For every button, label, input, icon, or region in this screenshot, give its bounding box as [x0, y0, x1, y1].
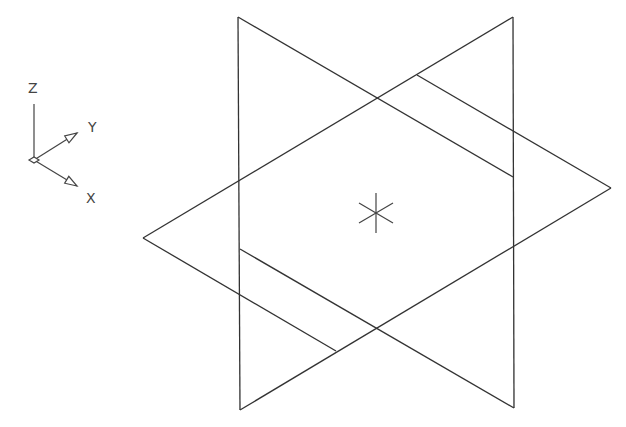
x-axis-label: X	[86, 190, 96, 206]
y-axis-label: Y	[87, 119, 97, 135]
viewport-background	[0, 0, 626, 427]
drawing-viewport[interactable]: Z Y X	[0, 0, 626, 427]
z-axis-label: Z	[28, 80, 38, 96]
